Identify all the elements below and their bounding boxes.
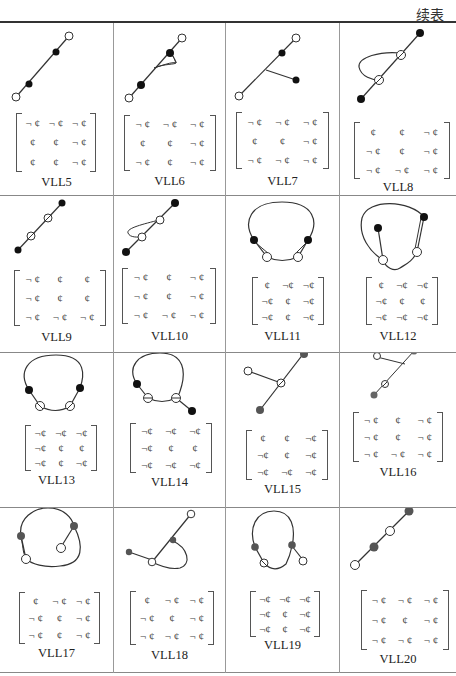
vll9-label: VLL9 (0, 330, 113, 345)
matrix-entry: ¬ ¢ (366, 590, 392, 610)
matrix-entry: ¬ ¢ (366, 610, 392, 630)
vll15-diagram-icon (226, 353, 339, 433)
matrix-entry: ¬ ¢ (135, 609, 160, 627)
vll7-matrix: ¬ ¢¬ ¢¬ ¢ ¢¢¬ ¢ ¬ ¢¬ ¢¬ ¢ (236, 112, 329, 169)
vll7-label: VLL7 (226, 174, 339, 189)
vll14-label: VLL14 (114, 475, 225, 490)
matrix-entry: ¬ ¢ (241, 150, 269, 169)
matrix-entry: ¬ ¢ (21, 113, 44, 133)
matrix-entry: ¬ ¢ (359, 160, 388, 179)
matrix-entry: ¬ ¢ (127, 268, 155, 287)
matrix-entry: ¢ (275, 430, 299, 447)
vll-table: ¬ ¢¬ ¢¬ ¢ ¢¢¬ ¢ ¢¢¬ ¢ VLL5 ¬ ¢¬ ¢¬ ¢ ¢¢¬… (0, 23, 456, 673)
matrix-entry: ¬ ¢ (366, 630, 392, 650)
vll19-label: VLL19 (226, 638, 339, 653)
matrix-entry: ¬ ¢ (184, 609, 209, 627)
vll20-matrix: ¬ ¢¬ ¢¬ ¢ ¬ ¢¢¬ ¢ ¬ ¢¬ ¢¬ ¢ (361, 590, 449, 650)
matrix-entry: ¬ ¢ (24, 609, 48, 626)
matrix-entry: ¬¢ (71, 456, 92, 471)
vll11-label: VLL11 (226, 329, 339, 344)
matrix-entry: ¬ ¢ (241, 112, 269, 131)
matrix-entry: ¬ ¢ (418, 610, 444, 630)
matrix-entry: ¬ ¢ (46, 307, 73, 326)
cell-vll12: ¢¬¢¬¢ ¬¢¢¢ ¬¢¬¢¬¢ VLL12 (340, 196, 456, 352)
vll11-diagram-icon (226, 196, 339, 286)
matrix-entry: ¬ ¢ (392, 630, 418, 650)
matrix-entry: ¢ (155, 268, 183, 287)
vll11-matrix: ¢¬¢¬¢ ¬¢¢¬¢ ¬¢¢¬¢ (252, 277, 324, 325)
matrix-entry: ¢ (71, 440, 92, 455)
matrix-entry: ¬¢ (51, 425, 72, 440)
matrix-entry: ¬ ¢ (385, 445, 412, 462)
matrix-entry: ¢ (388, 122, 417, 141)
cell-vll15: ¢¢¬¢ ¬¢¢¬¢ ¬¢¬¢¬¢ VLL15 (226, 353, 339, 507)
matrix-entry: ¬ ¢ (411, 412, 438, 429)
matrix-entry: ¬ ¢ (127, 287, 155, 306)
vll15-matrix: ¢¢¬¢ ¬¢¢¬¢ ¬¢¬¢¬¢ (246, 430, 328, 480)
cell-vll11: ¢¬¢¬¢ ¬¢¢¬¢ ¬¢¢¬¢ VLL11 (226, 196, 339, 352)
matrix-entry: ¬ ¢ (127, 305, 155, 324)
matrix-entry: ¬ ¢ (418, 630, 444, 650)
cell-vll6: ¬ ¢¬ ¢¬ ¢ ¢¢¬ ¢ ¬ ¢¢¬ ¢ VLL6 (114, 23, 225, 195)
matrix-entry: ¬ ¢ (388, 160, 417, 179)
vll20-diagram-icon (340, 508, 456, 588)
matrix-entry: ¬¢ (257, 293, 278, 309)
matrix-entry: ¬ ¢ (296, 112, 324, 131)
matrix-entry: ¬ ¢ (418, 590, 444, 610)
matrix-entry: ¢ (74, 270, 101, 289)
vll17-matrix: ¢¬ ¢¬ ¢ ¬ ¢¢¬ ¢ ¬ ¢¢¬ ¢ (19, 592, 100, 644)
matrix-entry: ¬ ¢ (68, 133, 91, 153)
matrix-entry: ¢ (278, 293, 299, 309)
matrix-entry: ¬¢ (295, 622, 315, 637)
matrix-entry: ¬¢ (159, 456, 183, 473)
matrix-entry: ¬ ¢ (19, 307, 46, 326)
matrix-entry: ¬¢ (298, 309, 319, 325)
matrix-entry: ¬ ¢ (358, 429, 385, 446)
vll13-label: VLL13 (0, 473, 113, 488)
matrix-entry: ¢ (359, 122, 388, 141)
matrix-entry: ¬¢ (30, 425, 51, 440)
matrix-entry: ¢ (46, 289, 73, 308)
matrix-entry: ¬¢ (298, 277, 319, 293)
matrix-entry: ¬ ¢ (71, 627, 95, 644)
vll5-label: VLL5 (0, 175, 113, 190)
matrix-entry: ¢ (275, 447, 299, 464)
matrix-entry: ¬ ¢ (184, 627, 209, 645)
vll9-matrix: ¬ ¢¢¢ ¬ ¢¢¢ ¬ ¢¬ ¢¬ ¢ (14, 270, 106, 326)
matrix-entry: ¢ (412, 293, 433, 309)
matrix-entry: ¬ ¢ (359, 141, 388, 160)
vll5-matrix: ¬ ¢¬ ¢¬ ¢ ¢¢¬ ¢ ¢¢¬ ¢ (16, 113, 96, 172)
matrix-entry: ¬¢ (371, 309, 392, 325)
matrix-entry: ¢ (160, 609, 185, 627)
vll18-matrix: ¢¬ ¢¬ ¢ ¬ ¢¢¬ ¢ ¬ ¢¬ ¢¬ ¢ (130, 591, 214, 645)
matrix-entry: ¬ ¢ (48, 592, 72, 609)
matrix-entry: ¢ (371, 277, 392, 293)
matrix-entry: ¬ ¢ (184, 134, 211, 153)
vll15-label: VLL15 (226, 482, 339, 497)
vll17-diagram-icon (0, 508, 113, 588)
matrix-entry: ¬ ¢ (71, 592, 95, 609)
matrix-entry: ¢ (385, 429, 412, 446)
matrix-entry: ¬ ¢ (155, 305, 183, 324)
matrix-entry: ¬ ¢ (392, 590, 418, 610)
matrix-entry: ¬ ¢ (411, 445, 438, 462)
vll18-diagram-icon (114, 508, 225, 588)
matrix-entry: ¢ (156, 134, 183, 153)
matrix-entry: ¬¢ (255, 622, 275, 637)
matrix-entry: ¬¢ (298, 293, 319, 309)
matrix-entry: ¬ ¢ (156, 115, 183, 134)
matrix-entry: ¬ ¢ (416, 122, 445, 141)
matrix-entry: ¢ (275, 622, 295, 637)
vll10-label: VLL10 (114, 329, 225, 344)
matrix-entry: ¢ (278, 309, 299, 325)
matrix-entry: ¬¢ (251, 447, 275, 464)
matrix-entry: ¬ ¢ (129, 152, 156, 171)
cell-vll16: ¬ ¢¢¬ ¢ ¬ ¢¢¬ ¢ ¬ ¢¬ ¢¬ ¢ VLL16 (340, 353, 456, 507)
matrix-entry: ¬ ¢ (160, 591, 185, 609)
matrix-entry: ¬ ¢ (160, 627, 185, 645)
matrix-entry: ¬ ¢ (296, 150, 324, 169)
vll14-diagram-icon (114, 353, 225, 433)
vll12-matrix: ¢¬¢¬¢ ¬¢¢¢ ¬¢¬¢¬¢ (366, 277, 438, 325)
matrix-entry: ¬¢ (412, 309, 433, 325)
matrix-entry: ¬ ¢ (135, 627, 160, 645)
